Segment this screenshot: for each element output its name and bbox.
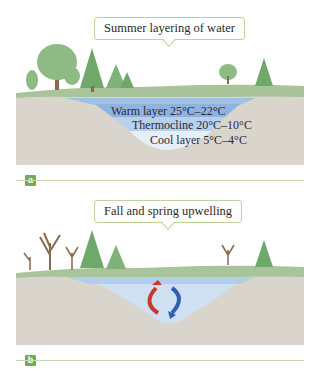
- label-thermocline: Thermocline 20°C–10°C: [132, 118, 252, 133]
- trees-right: [219, 58, 273, 86]
- callout-summer: Summer layering of water: [94, 17, 245, 40]
- panel-b-upwelling: Fall and spring upwelling b: [0, 185, 321, 374]
- evergreen-trees: [80, 230, 273, 269]
- panel-a-rule: [16, 180, 304, 181]
- callout-upwelling: Fall and spring upwelling: [94, 200, 242, 223]
- label-cool-layer: Cool layer 5°C–4°C: [150, 133, 247, 148]
- bare-trees: [24, 233, 234, 270]
- trees-left: [26, 44, 134, 92]
- panel-b-rule: [16, 360, 304, 361]
- panel-a-summer-layering: Summer layering of water Warm layer 25°C…: [0, 0, 321, 185]
- label-warm-layer: Warm layer 25°C–22°C: [111, 104, 226, 119]
